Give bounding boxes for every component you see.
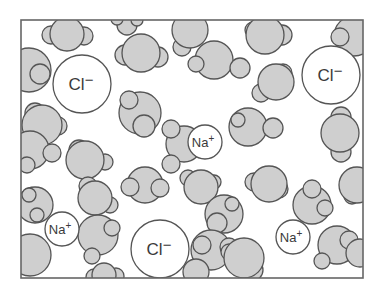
chloride-ion: Cl− [131, 220, 189, 278]
oxygen-atom [122, 34, 160, 72]
sodium-ion: Na+ [188, 125, 222, 159]
hydrogen-atom [43, 144, 61, 162]
oxygen-atom [258, 64, 294, 100]
oxygen-atom [224, 238, 264, 278]
oxygen-atom [251, 166, 287, 202]
hydrogen-atom [162, 120, 180, 138]
chloride-ion: Cl− [302, 46, 360, 104]
hydrogen-atom [230, 58, 250, 78]
hydrogen-atom [303, 180, 321, 198]
hydrogen-atom [104, 220, 120, 236]
water-molecule [17, 187, 53, 223]
oxygen-atom [246, 16, 284, 54]
hydrogen-atom [22, 188, 36, 202]
hydrogen-atom [121, 178, 139, 196]
hydrogen-atom [30, 64, 50, 84]
oxygen-atom [78, 181, 112, 215]
oxygen-atom [321, 114, 359, 152]
hydrogen-atom [162, 155, 180, 173]
hydrogen-atom [84, 248, 100, 264]
hydrogen-atom [231, 113, 245, 127]
chloride-ion: Cl− [53, 55, 111, 113]
hydrogen-atom [30, 208, 44, 222]
hydrogen-atom [193, 236, 211, 254]
hydrogen-atom [188, 56, 204, 72]
hydrogen-atom [317, 200, 333, 216]
oxygen-atom [66, 141, 104, 179]
hydrogen-atom [225, 197, 239, 211]
hydrogen-atom [263, 118, 283, 138]
nacl-solution-diagram: Cl−Cl−Cl−Na+Na+Na+ [0, 0, 381, 294]
water-molecule [205, 195, 243, 233]
sodium-ion: Na+ [276, 220, 310, 254]
oxygen-atom [50, 17, 84, 51]
hydrogen-atom [331, 28, 349, 46]
hydrogen-atom [133, 115, 155, 137]
sodium-ion: Na+ [45, 212, 79, 246]
hydrogen-atom [314, 253, 330, 269]
hydrogen-atom [151, 179, 169, 197]
hydrogen-atom [120, 91, 138, 109]
